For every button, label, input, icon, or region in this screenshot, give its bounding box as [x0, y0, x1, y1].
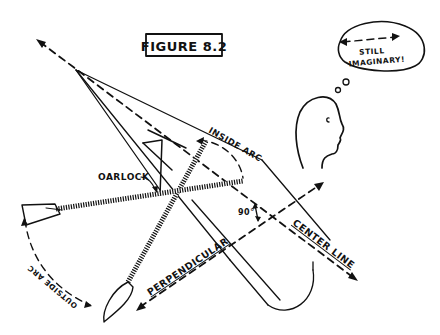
outside-arc-label: OUTSIDE ARC — [26, 263, 80, 310]
thought-dot — [343, 79, 349, 85]
perpendicular-label: PERPENDICULAR — [145, 235, 230, 298]
oar-blade — [104, 282, 133, 322]
center-line-label: CENTER LINE — [291, 217, 357, 271]
oar-horizontal — [22, 181, 243, 225]
person-head-icon — [296, 97, 344, 168]
arrow-head-icon — [348, 272, 358, 281]
thought-bubble: STILL IMAGINARY! — [336, 22, 425, 93]
oar-blade — [22, 204, 60, 225]
outside-arc: OUTSIDE ARC — [21, 218, 92, 310]
diagram-canvas: FIGURE 8.2 INSIDE ARC — [0, 0, 440, 335]
arrow-head-icon — [255, 216, 261, 222]
thought-line2: IMAGINARY! — [348, 55, 405, 69]
right-angle-marker: 90° — [238, 203, 261, 222]
figure-title-box: FIGURE 8.2 — [141, 34, 227, 56]
angle-label: 90° — [238, 208, 255, 217]
arrow-head-icon — [252, 203, 258, 209]
thought-line1: STILL — [359, 46, 385, 56]
arrow-head-icon — [314, 182, 324, 191]
arrow-head-icon — [392, 33, 400, 41]
arrow-head-icon — [84, 301, 92, 308]
thought-dot — [336, 88, 341, 93]
imaginary-boat-cone — [76, 70, 330, 310]
arrow-head-icon — [36, 39, 46, 48]
perpendicular-line — [136, 182, 324, 311]
figure-title: FIGURE 8.2 — [141, 39, 227, 54]
oarlock-callout: OARLOCK — [98, 172, 158, 193]
arrow-head-icon — [21, 218, 28, 226]
